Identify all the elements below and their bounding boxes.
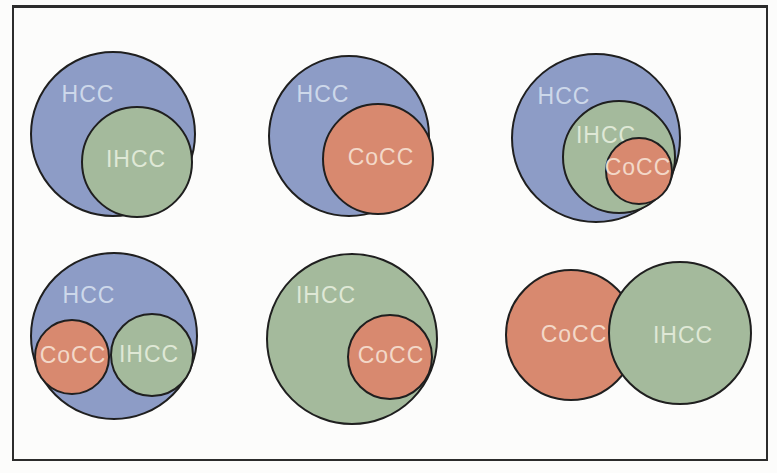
venn-bottom-right: CoCC IHCC: [0, 0, 777, 473]
circle-ihcc: IHCC: [608, 261, 752, 405]
label-ihcc: IHCC: [653, 322, 713, 349]
label-cocc: CoCC: [541, 321, 608, 348]
figure-canvas: HCC IHCC HCC CoCC HCC IHCC CoCC HCC CoCC: [0, 0, 777, 473]
